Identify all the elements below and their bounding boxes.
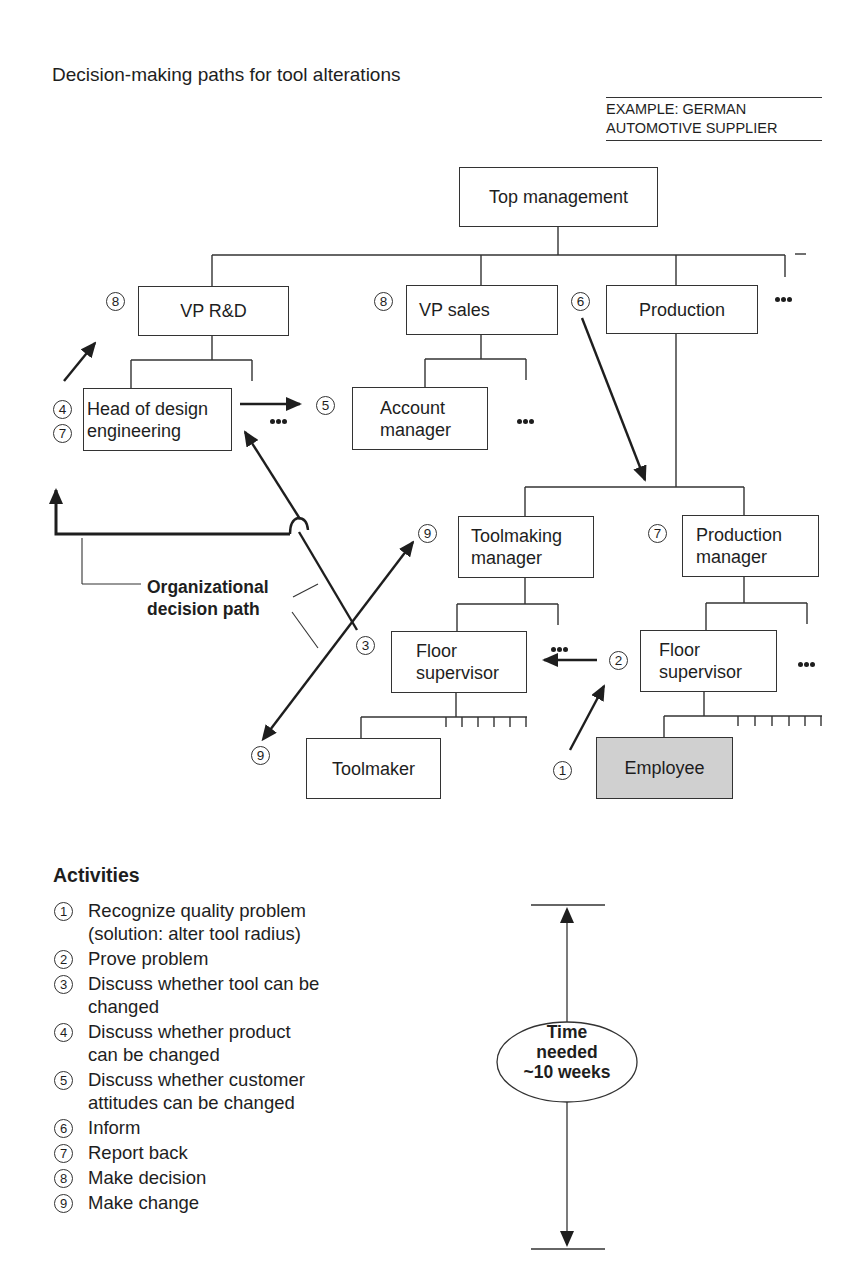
activity-text-cont: attitudes can be changed <box>88 1091 384 1114</box>
step-marker-1: 1 <box>553 761 572 780</box>
activity-item: 3 Discuss whether tool can be changed <box>54 972 384 1018</box>
box-label: VP sales <box>419 299 490 321</box>
step-marker-3: 3 <box>54 975 73 994</box>
arrow-head-to-vp <box>64 343 95 381</box>
box-label: Employee <box>624 757 704 779</box>
step-marker-6: 6 <box>54 1119 73 1138</box>
box-vp-rd: VP R&D <box>138 286 289 336</box>
ellipsis-icon <box>798 657 816 667</box>
step-marker-9: 9 <box>251 746 270 765</box>
box-floor-supervisor-toolmaking: Floor supervisor <box>391 631 527 693</box>
box-toolmaking-manager: Toolmaking manager <box>458 516 594 578</box>
step-marker-6: 6 <box>571 292 590 311</box>
step-marker-2: 2 <box>609 651 628 670</box>
time-needed-label: Time needed ~10 weeks <box>497 1022 637 1082</box>
org-label-line2: decision path <box>147 598 269 620</box>
step-marker-4: 4 <box>53 400 72 419</box>
box-label: Production <box>639 299 725 321</box>
box-label-line2: manager <box>471 547 562 569</box>
activity-text: Prove problem <box>88 947 384 970</box>
step-marker-8: 8 <box>54 1169 73 1188</box>
activity-text: Recognize quality problem <box>88 899 384 922</box>
box-label-line2: manager <box>696 546 782 568</box>
activity-item: 4 Discuss whether product can be changed <box>54 1020 384 1066</box>
activity-text: Discuss whether product <box>88 1020 384 1043</box>
box-label-line2: manager <box>380 419 451 441</box>
activities-heading: Activities <box>53 864 140 887</box>
box-label: Toolmaker <box>332 758 415 780</box>
activity-item: 2 Prove problem <box>54 947 384 970</box>
box-vp-sales: VP sales <box>406 285 558 335</box>
activity-text: Report back <box>88 1141 384 1164</box>
activity-text-cont: changed <box>88 995 384 1018</box>
box-label-line2: supervisor <box>659 661 742 683</box>
activity-item: 7 Report back <box>54 1141 384 1164</box>
box-label-line1: Floor <box>659 639 742 661</box>
step-marker-5: 5 <box>54 1071 73 1090</box>
step-marker-4: 4 <box>54 1023 73 1042</box>
activity-text: Inform <box>88 1116 384 1139</box>
step-marker-9: 9 <box>54 1194 73 1213</box>
activity-item: 9 Make change <box>54 1191 384 1214</box>
ellipsis-icon <box>551 642 569 652</box>
box-head-design-engineering: Head of design engineering <box>83 388 232 451</box>
time-line3: ~10 weeks <box>497 1062 637 1082</box>
step-marker-7: 7 <box>648 524 667 543</box>
step-marker-9: 9 <box>418 524 437 543</box>
step-marker-7: 7 <box>54 1144 73 1163</box>
activity-text: Make decision <box>88 1166 384 1189</box>
ellipsis-icon <box>775 292 793 302</box>
org-label-line1: Organizational <box>147 576 269 598</box>
box-label-line1: Floor <box>416 640 499 662</box>
time-line2: needed <box>497 1042 637 1062</box>
step-marker-1: 1 <box>54 902 73 921</box>
box-label-line1: Head of design <box>87 398 208 420</box>
org-decision-path-arrow <box>56 490 290 534</box>
box-production: Production <box>606 285 758 334</box>
box-floor-supervisor-production: Floor supervisor <box>640 630 777 692</box>
box-label-line1: Account <box>380 397 451 419</box>
org-decision-path-label: Organizational decision path <box>147 576 269 620</box>
step-marker-5: 5 <box>316 396 335 415</box>
box-label-line1: Production <box>696 524 782 546</box>
step-marker-8: 8 <box>106 292 125 311</box>
time-line1: Time <box>497 1022 637 1042</box>
box-account-manager: Account manager <box>352 387 488 450</box>
step-marker-7: 7 <box>53 424 72 443</box>
activity-text: Discuss whether tool can be <box>88 972 384 995</box>
activity-item: 1 Recognize quality problem (solution: a… <box>54 899 384 945</box>
box-production-manager: Production manager <box>682 515 819 577</box>
step-marker-3: 3 <box>356 636 375 655</box>
activity-item: 8 Make decision <box>54 1166 384 1189</box>
ellipsis-icon <box>517 414 535 424</box>
activity-item: 6 Inform <box>54 1116 384 1139</box>
box-label-line1: Toolmaking <box>471 525 562 547</box>
activity-text: Make change <box>88 1191 384 1214</box>
box-label-line2: engineering <box>87 420 208 442</box>
arrow-inform <box>582 318 645 480</box>
activity-text: Discuss whether customer <box>88 1068 384 1091</box>
box-employee: Employee <box>596 737 733 799</box>
box-top-management: Top management <box>459 167 658 227</box>
activity-text-cont: can be changed <box>88 1043 384 1066</box>
box-label: Top management <box>489 186 628 208</box>
box-label: VP R&D <box>180 300 247 322</box>
box-label-line2: supervisor <box>416 662 499 684</box>
activity-text-cont: (solution: alter tool radius) <box>88 922 384 945</box>
ellipsis-icon <box>270 414 288 424</box>
step-marker-2: 2 <box>54 950 73 969</box>
box-toolmaker: Toolmaker <box>306 738 441 799</box>
step-marker-8: 8 <box>374 292 393 311</box>
arrow-discuss-to-head <box>299 532 357 630</box>
activity-item: 5 Discuss whether customer attitudes can… <box>54 1068 384 1114</box>
activities-list: 1 Recognize quality problem (solution: a… <box>54 899 384 1216</box>
